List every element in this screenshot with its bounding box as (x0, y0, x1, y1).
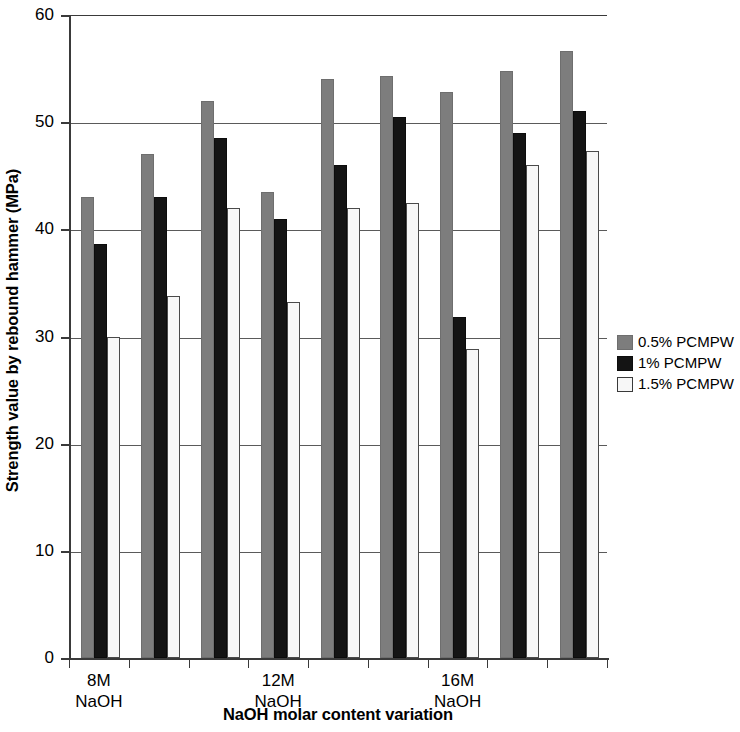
y-tick-mark (61, 658, 69, 660)
bar (214, 138, 227, 658)
y-tick-label: 60 (18, 6, 54, 23)
x-tick-mark (69, 659, 70, 668)
y-tick-label: 0 (18, 649, 54, 666)
bar (406, 203, 419, 658)
bar (261, 192, 274, 658)
bar (94, 244, 107, 658)
legend-label: 1% PCMPW (638, 355, 721, 371)
bar (274, 219, 287, 658)
y-tick-mark (61, 122, 69, 124)
legend-swatch (617, 356, 633, 371)
y-tick-label: 30 (18, 328, 54, 345)
bar-chart-figure: Strength value by rebound hammer (MPa) 0… (0, 0, 740, 732)
legend-label: 0.5% PCMPW (638, 334, 734, 350)
legend-label: 1.5% PCMPW (638, 376, 734, 392)
bar (107, 337, 120, 659)
bar (334, 165, 347, 658)
x-tick-mark (129, 659, 130, 668)
y-tick-label: 40 (18, 220, 54, 237)
bar (466, 349, 479, 658)
bar (560, 51, 573, 658)
gridline (71, 123, 607, 124)
bar (154, 197, 167, 658)
legend-swatch (617, 377, 633, 392)
bar (573, 111, 586, 658)
y-tick-label: 50 (18, 113, 54, 130)
x-axis-title: NaOH molar content variation (69, 705, 607, 724)
bar (287, 302, 300, 658)
bar (321, 79, 334, 658)
legend-swatch (617, 335, 633, 350)
x-tick-label-line1: 8M (54, 670, 144, 691)
y-tick-label: 20 (18, 435, 54, 452)
y-tick-mark (61, 551, 69, 553)
bar (393, 117, 406, 658)
legend-item: 0.5% PCMPW (617, 332, 740, 352)
x-axis-line (69, 658, 609, 660)
bar (167, 296, 180, 658)
bar (586, 151, 599, 658)
x-tick-mark (428, 659, 429, 668)
x-tick-mark (487, 659, 488, 668)
bar (500, 71, 513, 658)
y-tick-mark (61, 229, 69, 231)
bar (440, 92, 453, 658)
legend: 0.5% PCMPW1% PCMPW1.5% PCMPW (617, 332, 740, 395)
x-tick-mark (308, 659, 309, 668)
bar (141, 154, 154, 658)
bar (201, 101, 214, 658)
bar (380, 76, 393, 658)
y-tick-mark (61, 444, 69, 446)
x-tick-mark (248, 659, 249, 668)
y-tick-mark (61, 15, 69, 17)
x-tick-mark (368, 659, 369, 668)
y-tick-mark (61, 337, 69, 339)
bar (81, 197, 94, 658)
x-tick-label-line1: 16M (413, 670, 503, 691)
bar (526, 165, 539, 658)
bar (513, 133, 526, 658)
y-tick-label: 10 (18, 542, 54, 559)
bar (227, 208, 240, 658)
x-tick-label-line1: 12M (233, 670, 323, 691)
x-tick-mark (607, 659, 608, 668)
legend-item: 1% PCMPW (617, 353, 740, 373)
x-tick-mark (189, 659, 190, 668)
bar (347, 208, 360, 658)
x-tick-mark (547, 659, 548, 668)
plot-area (69, 15, 607, 658)
legend-item: 1.5% PCMPW (617, 374, 740, 394)
bar (453, 317, 466, 658)
